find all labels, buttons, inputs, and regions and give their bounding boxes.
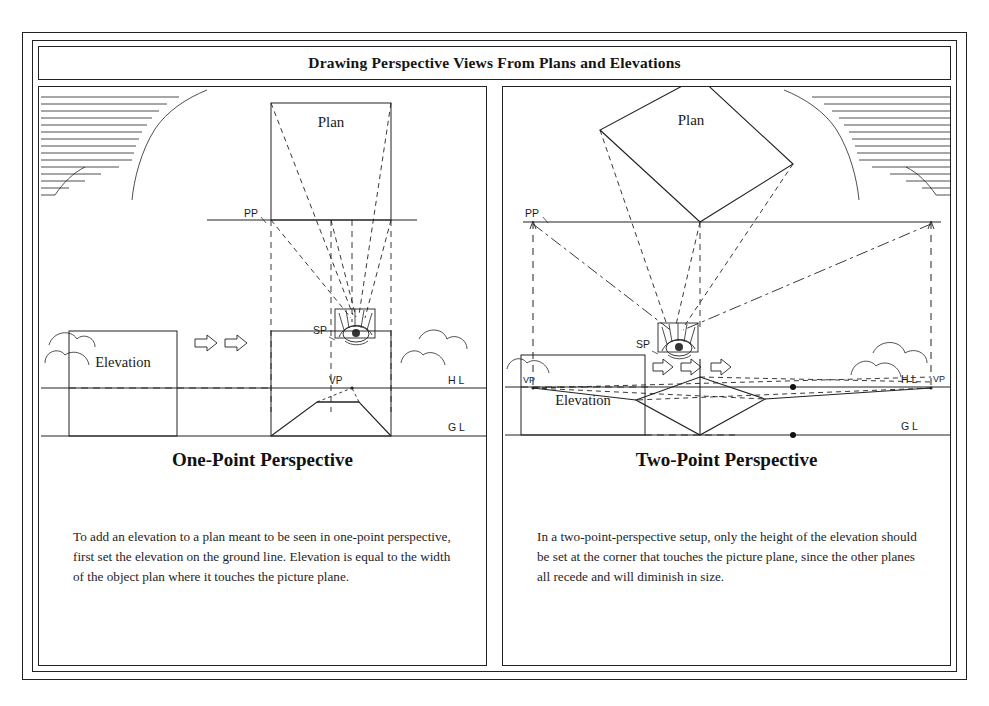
vanishing-point-label: VP (329, 375, 343, 386)
perspective-drawing-page: Drawing Perspective Views From Plans and… (0, 0, 989, 706)
page-title: Drawing Perspective Views From Plans and… (308, 54, 680, 72)
title-bar: Drawing Perspective Views From Plans and… (38, 46, 951, 80)
plan-label: Plan (318, 114, 345, 130)
sky-hatch-decoration (782, 89, 950, 200)
picture-plane-label: PP (525, 207, 539, 219)
transfer-arrows (195, 335, 247, 351)
plan-rotated (600, 87, 793, 222)
ground-line-label: G L (448, 421, 465, 433)
caption-two-point: In a two-point-perspective setup, only t… (537, 527, 922, 587)
sight-lines (600, 130, 793, 325)
station-point-marker (658, 323, 698, 359)
vanishing-rays (317, 388, 359, 402)
vanishing-point-dot (350, 386, 353, 389)
vanishing-construction-lines (533, 224, 931, 332)
caption-one-point: To add an elevation to a plan meant to b… (73, 527, 458, 587)
sight-lines (271, 103, 391, 318)
picture-plane-label: PP (244, 207, 258, 219)
station-point-label: SP (313, 324, 327, 336)
vanishing-point-right-label: VP (933, 374, 945, 384)
horizon-line-label: H L (901, 373, 918, 385)
cloud-decorations (507, 343, 927, 378)
plan-label: Plan (678, 112, 705, 128)
sky-hatch-decoration (41, 89, 209, 200)
transfer-arrows (653, 359, 731, 375)
vanishing-point-left-label: VP (523, 375, 535, 385)
elevation-rectangle (69, 331, 177, 436)
measuring-point-ground (790, 432, 796, 438)
measuring-point-horizon (790, 384, 796, 390)
panel-one-point-perspective: Plan PP (38, 86, 487, 666)
station-point-marker (335, 309, 375, 345)
horizon-line-label: H L (448, 374, 465, 386)
elevation-label: Elevation (95, 354, 151, 370)
ground-line-label: G L (901, 420, 918, 432)
panel-two-point-perspective: Plan PP (502, 86, 951, 666)
station-point-label: SP (636, 338, 650, 350)
